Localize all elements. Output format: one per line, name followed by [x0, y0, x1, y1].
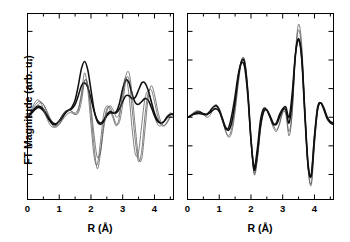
x-tick-label: 2 [84, 203, 98, 214]
x-ticks [28, 14, 171, 200]
x-tick-label: 3 [116, 203, 130, 214]
curve-thick-curve-1 [28, 61, 174, 124]
curve-group [28, 61, 174, 168]
x-tick-label: 0 [21, 203, 35, 214]
curve-group [188, 24, 334, 186]
curve-thin-curve-2 [188, 30, 334, 184]
y-axis-label: FT Magnitude (arb. u.) [22, 20, 34, 200]
x-axis-label-left: R (Å) [27, 222, 173, 234]
figure-container: FT Magnitude (arb. u.) R (Å) R (Å) 01234… [0, 0, 350, 242]
curve-thick-curve-2 [188, 40, 334, 177]
y-ticks [188, 31, 334, 174]
x-tick-label: 0 [181, 203, 195, 214]
x-tick-label: 2 [244, 203, 258, 214]
x-tick-label: 1 [212, 203, 226, 214]
x-tick-label: 4 [307, 203, 321, 214]
curve-thick-curve-1 [188, 39, 334, 178]
panel-right [188, 14, 334, 200]
x-tick-label: 1 [52, 203, 66, 214]
x-tick-label: 4 [147, 203, 161, 214]
x-tick-label: 3 [276, 203, 290, 214]
x-axis-label-right: R (Å) [187, 222, 333, 234]
panel-left [28, 14, 174, 200]
curve-thin-curve-1 [188, 24, 334, 186]
